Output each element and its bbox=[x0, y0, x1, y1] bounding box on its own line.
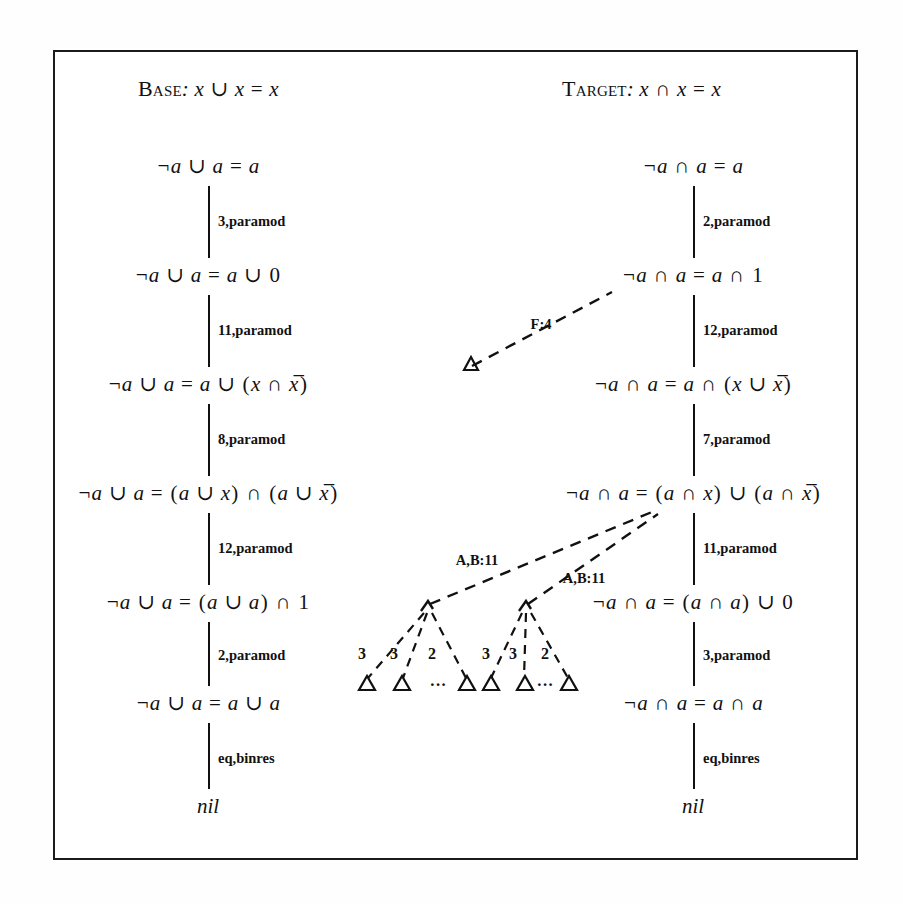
base-node-4: ¬a ∪ a = (a ∪ x) ∩ (a ∪ x̅) bbox=[77, 481, 338, 506]
right-subtree-ellipsis: ··· bbox=[536, 675, 553, 695]
target-spine-1 bbox=[693, 186, 695, 258]
target-node-1: ¬a ∩ a = a bbox=[643, 154, 743, 179]
ab11-right-link-label: A,B:11 bbox=[563, 570, 605, 587]
right-subtree-label-1: 3 bbox=[482, 645, 490, 663]
target-spine-5 bbox=[693, 622, 695, 686]
base-header-caps: Base bbox=[138, 76, 182, 101]
base-column-header: Base: x ∪ x = x bbox=[138, 76, 279, 102]
target-spine-2 bbox=[693, 295, 695, 367]
left-subtree-label-2: 3 bbox=[390, 645, 398, 663]
base-spine-6 bbox=[208, 723, 210, 789]
target-node-6: ¬a ∩ a = a ∩ a bbox=[623, 691, 763, 716]
target-spine-4 bbox=[693, 513, 695, 585]
target-edge-label-5: 3,paramod bbox=[703, 647, 770, 664]
target-edge-label-2: 12,paramod bbox=[703, 322, 778, 339]
base-edge-label-6: eq,binres bbox=[218, 750, 275, 767]
base-spine-1 bbox=[208, 186, 210, 258]
base-node-3: ¬a ∪ a = a ∪ (x ∩ x̅) bbox=[108, 372, 309, 397]
target-header-caps: Target bbox=[562, 76, 627, 101]
target-spine-3 bbox=[693, 404, 695, 476]
base-node-1: ¬a ∪ a = a bbox=[157, 154, 260, 179]
right-subtree-label-3: 2 bbox=[541, 645, 549, 663]
target-edge-label-6: eq,binres bbox=[703, 750, 760, 767]
target-edge-label-3: 7,paramod bbox=[703, 431, 770, 448]
target-node-4: ¬a ∩ a = (a ∩ x) ∪ (a ∩ x̅) bbox=[565, 481, 821, 506]
target-node-3: ¬a ∩ a = a ∩ (x ∪ x̅) bbox=[594, 372, 792, 397]
target-edge-label-4: 11,paramod bbox=[703, 540, 777, 557]
base-header-formula: : x ∪ x = x bbox=[182, 77, 279, 101]
target-edge-label-1: 2,paramod bbox=[703, 213, 770, 230]
base-spine-5 bbox=[208, 622, 210, 686]
base-edge-label-1: 3,paramod bbox=[218, 213, 285, 230]
base-edge-label-2: 11,paramod bbox=[218, 322, 292, 339]
base-node-5: ¬a ∪ a = (a ∪ a) ∩ 1 bbox=[106, 590, 311, 615]
base-edge-label-5: 2,paramod bbox=[218, 647, 285, 664]
left-subtree-label-3: 2 bbox=[428, 645, 436, 663]
ab11-left-link-label: A,B:11 bbox=[456, 552, 498, 569]
target-header-formula: : x ∩ x = x bbox=[627, 77, 721, 101]
target-node-2: ¬a ∩ a = a ∩ 1 bbox=[622, 263, 764, 288]
base-node-2: ¬a ∪ a = a ∪ 0 bbox=[135, 263, 282, 288]
target-column-header: Target: x ∩ x = x bbox=[562, 76, 721, 102]
left-subtree-label-1: 3 bbox=[358, 645, 366, 663]
base-terminal-nil: nil bbox=[197, 794, 219, 819]
target-terminal-nil: nil bbox=[682, 794, 704, 819]
f4-link-label: F:4 bbox=[531, 316, 552, 333]
base-node-6: ¬a ∪ a = a ∪ a bbox=[136, 691, 281, 716]
base-edge-label-4: 12,paramod bbox=[218, 540, 293, 557]
base-spine-2 bbox=[208, 295, 210, 367]
left-subtree-ellipsis: ··· bbox=[429, 675, 446, 695]
right-subtree-label-2: 3 bbox=[509, 645, 517, 663]
base-edge-label-3: 8,paramod bbox=[218, 431, 285, 448]
base-spine-4 bbox=[208, 513, 210, 585]
target-node-5: ¬a ∩ a = (a ∩ a) ∪ 0 bbox=[592, 590, 794, 615]
target-spine-6 bbox=[693, 723, 695, 789]
figure-page: Base: x ∪ x = x Target: x ∩ x = x ¬a ∪ a… bbox=[0, 0, 903, 904]
base-spine-3 bbox=[208, 404, 210, 476]
